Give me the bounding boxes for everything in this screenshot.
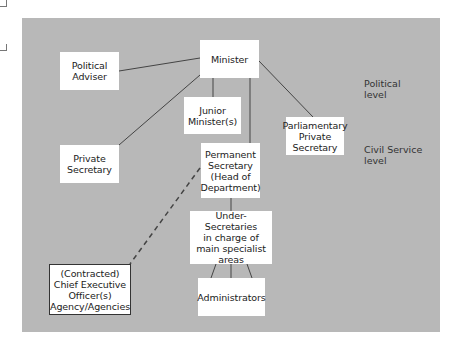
level-label-civil-service: Civil Service level bbox=[364, 144, 422, 166]
level-label-political: Political level bbox=[364, 78, 401, 100]
node-under-secretaries: Under-Secretaries in charge of main spec… bbox=[190, 211, 272, 264]
edge-minister-political-adviser bbox=[119, 58, 200, 71]
node-political-adviser: Political Adviser bbox=[60, 52, 119, 90]
edge-undersec-admin-3 bbox=[247, 264, 252, 278]
node-private-secretary: Private Secretary bbox=[60, 145, 119, 183]
node-permanent-secretary: Permanent Secretary (Head of Department) bbox=[201, 143, 260, 198]
node-administrators: Administrators bbox=[198, 278, 265, 316]
edge-minister-parliamentary bbox=[259, 61, 313, 117]
node-parliamentary-private-secretary: Parliamentary Private Secretary bbox=[286, 117, 344, 155]
edge-undersec-admin-1 bbox=[211, 264, 216, 278]
node-chief-executive: (Contracted) Chief Executive Officer(s) … bbox=[49, 264, 131, 315]
node-minister: Minister bbox=[200, 40, 259, 78]
node-junior-minister: Junior Minister(s) bbox=[184, 97, 241, 134]
